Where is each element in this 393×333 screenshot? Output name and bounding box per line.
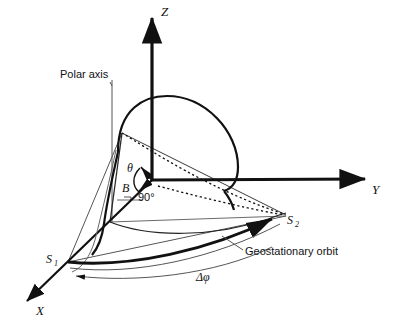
y-axis (152, 179, 365, 180)
s1-label: S (46, 252, 52, 266)
z-axis-label: Z (161, 4, 169, 19)
s2-label: S (287, 213, 293, 227)
s2-subscript: 2 (295, 220, 299, 229)
polar-axis-label: Polar axis (60, 68, 109, 80)
theta-label: θ (127, 161, 133, 175)
delta-phi-label: Δφ (195, 270, 210, 284)
geometry-diagram-svg: Z Y X Polar axis θ B 90° S 1 S 2 Geostat… (0, 0, 393, 333)
right-angle-label: 90° (138, 191, 155, 203)
s1-subscript: 1 (54, 259, 58, 268)
diagram-canvas: Z Y X Polar axis θ B 90° S 1 S 2 Geostat… (0, 0, 393, 333)
orbit-label: Geostationary orbit (245, 245, 338, 257)
x-axis-label: X (35, 303, 45, 318)
b-point-label: B (122, 181, 130, 195)
